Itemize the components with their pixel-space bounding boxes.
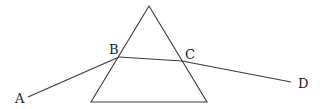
prism-diagram: A B C D [0, 0, 322, 109]
label-a: A [14, 91, 25, 106]
incident-ray [28, 57, 119, 97]
emergent-ray [182, 61, 291, 82]
label-c: C [185, 47, 195, 62]
refracted-ray [119, 57, 182, 61]
label-b: B [109, 42, 119, 57]
label-d: D [298, 76, 308, 91]
